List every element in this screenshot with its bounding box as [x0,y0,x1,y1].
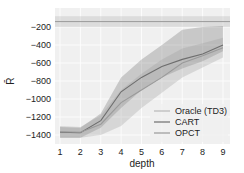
y-tick-label: −600 [31,58,51,68]
legend: Oracle (TD3)CARTOPCT [150,104,228,142]
y-tick-label: −200 [31,22,51,32]
y-tick-label: −1400 [26,130,51,140]
x-axis-label: depth [129,158,154,169]
x-tick-label: 3 [98,147,103,157]
y-tick-label: −800 [31,76,51,86]
y-tick-label: −1000 [26,94,51,104]
y-tick-label: −1200 [26,112,51,122]
x-tick-label: 1 [57,147,62,157]
x-tick-label: 4 [119,147,124,157]
legend-label: Oracle (TD3) [175,106,227,116]
y-axis-ticks: −200−400−600−800−1000−1200−1400 [26,22,51,140]
x-tick-label: 9 [220,147,225,157]
x-tick-label: 5 [139,147,144,157]
x-tick-label: 8 [200,147,205,157]
line-chart: −200−400−600−800−1000−1200−1400 12345678… [0,0,244,173]
x-tick-label: 7 [180,147,185,157]
x-tick-label: 6 [159,147,164,157]
x-tick-label: 2 [78,147,83,157]
legend-label: OPCT [175,128,201,138]
y-tick-label: −400 [31,40,51,50]
legend-label: CART [175,117,200,127]
y-axis-label: R̄ [4,77,16,84]
x-axis-ticks: 123456789 [57,147,225,157]
